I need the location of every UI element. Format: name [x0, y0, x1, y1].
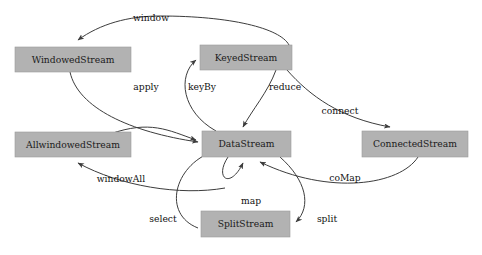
node-keyed-stream[interactable]: KeyedStream	[200, 45, 292, 70]
edge-edge-map	[223, 157, 243, 179]
node-allwindowed-stream[interactable]: AllwindowedStream	[15, 132, 131, 157]
node-label-windowed-stream: WindowedStream	[32, 54, 115, 65]
node-label-data-stream: DataStream	[218, 138, 274, 149]
edge-labels-layer: windowapplykeyByreduceconnectwindowAllco…	[97, 12, 361, 224]
node-split-stream[interactable]: SplitStream	[201, 211, 290, 237]
edge-edge-connect	[287, 70, 390, 127]
edge-edge-window	[78, 16, 289, 45]
edge-label-edge-comap: coMap	[329, 172, 361, 183]
edge-label-edge-keyby: keyBy	[188, 81, 217, 92]
node-label-allwindowed-stream: AllwindowedStream	[25, 139, 120, 150]
node-windowed-stream[interactable]: WindowedStream	[15, 47, 131, 72]
node-label-keyed-stream: KeyedStream	[215, 52, 278, 63]
edge-label-edge-window: window	[133, 12, 169, 23]
edge-label-edge-reduce: reduce	[269, 81, 301, 92]
node-label-connected-stream: ConnectedStream	[373, 138, 457, 149]
node-connected-stream[interactable]: ConnectedStream	[362, 131, 468, 157]
edge-edge-keyby	[185, 60, 216, 131]
edge-label-edge-select: select	[149, 213, 177, 224]
diagram-canvas: WindowedStreamKeyedStreamAllwindowedStre…	[0, 0, 482, 255]
edge-edge-reduce	[243, 70, 276, 127]
node-data-stream[interactable]: DataStream	[202, 131, 291, 157]
node-label-split-stream: SplitStream	[218, 218, 274, 229]
edge-label-edge-windowall: windowAll	[97, 173, 146, 184]
nodes-layer: WindowedStreamKeyedStreamAllwindowedStre…	[15, 45, 468, 237]
edge-label-edge-connect: connect	[322, 105, 359, 116]
stream-transformation-diagram: WindowedStreamKeyedStreamAllwindowedStre…	[0, 0, 482, 255]
edge-label-edge-split: split	[317, 213, 337, 224]
edge-label-edge-map: map	[241, 195, 261, 206]
edge-label-edge-apply: apply	[133, 81, 159, 92]
